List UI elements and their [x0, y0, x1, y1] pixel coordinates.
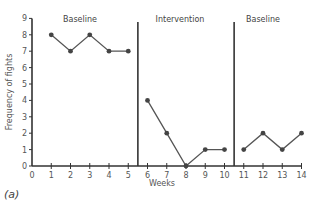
series-line	[244, 133, 302, 149]
x-tick-label: 3	[87, 171, 92, 180]
series-line	[148, 100, 225, 166]
y-tick-label: 0	[22, 162, 27, 171]
data-point	[222, 147, 227, 152]
x-tick-label: 2	[68, 171, 73, 180]
series-line	[51, 35, 128, 51]
x-tick-label: 4	[106, 171, 111, 180]
data-point	[299, 131, 304, 136]
phase-label: Intervention	[156, 15, 205, 24]
x-tick-label: 8	[183, 171, 188, 180]
data-point	[107, 49, 112, 54]
data-point	[241, 147, 246, 152]
data-point	[87, 32, 92, 37]
x-tick-label: 12	[258, 171, 268, 180]
y-tick-label: 3	[22, 113, 27, 122]
data-point	[203, 147, 208, 152]
y-tick-label: 9	[22, 14, 27, 23]
data-point	[164, 131, 169, 136]
data-series	[49, 32, 304, 168]
data-point	[49, 32, 54, 37]
y-tick-label: 5	[22, 80, 27, 89]
phase-label: Baseline	[63, 15, 97, 24]
phase-change-lines: BaselineInterventionBaseline	[63, 15, 280, 166]
panel-label: (a)	[4, 188, 19, 201]
y-tick-label: 7	[22, 47, 27, 56]
data-point	[145, 98, 150, 103]
y-tick-label: 1	[22, 146, 27, 155]
x-tick-label: 0	[29, 171, 34, 180]
y-tick-label: 2	[22, 129, 27, 138]
y-axis-title: Frequency of fights	[5, 54, 14, 131]
x-tick-label: 1	[49, 171, 54, 180]
data-point	[126, 49, 131, 54]
x-tick-label: 9	[203, 171, 208, 180]
x-tick-label: 5	[126, 171, 131, 180]
y-tick-label: 6	[22, 64, 27, 73]
data-point	[184, 164, 189, 169]
x-tick-label: 13	[277, 171, 287, 180]
y-tick-label: 4	[22, 96, 27, 105]
x-tick-label: 14	[296, 171, 306, 180]
data-point	[68, 49, 73, 54]
x-tick-label: 11	[239, 171, 249, 180]
single-case-chart: BaselineInterventionBaseline 01234567890…	[0, 0, 317, 205]
x-axis-title: Weeks	[149, 179, 175, 188]
data-point	[280, 147, 285, 152]
y-tick-label: 8	[22, 31, 27, 40]
axes: 012345678901234567891011121314	[22, 14, 307, 180]
data-point	[261, 131, 266, 136]
phase-label: Baseline	[246, 15, 280, 24]
x-tick-label: 10	[219, 171, 229, 180]
